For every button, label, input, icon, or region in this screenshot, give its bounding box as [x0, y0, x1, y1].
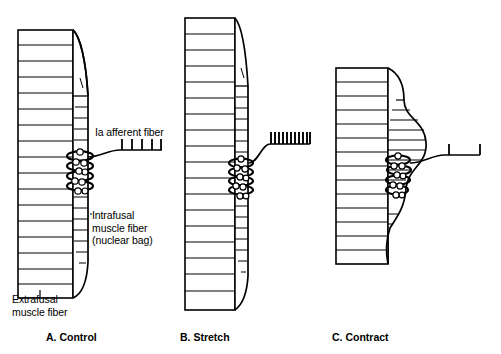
- panel-b-extrafusal-fiber: [185, 18, 235, 310]
- panel-c-spike-train: [449, 144, 480, 155]
- panel-b-group: [185, 18, 310, 310]
- panel-b-spike-train: [271, 132, 310, 144]
- panel-c-extrafusal-fiber: [336, 68, 388, 264]
- panel-b-caption: B. Stretch: [180, 331, 230, 343]
- label-intrafusal-fiber: Intrafusal muscle fiber (nuclear bag): [92, 209, 153, 247]
- panel-a-spike-train: [122, 139, 161, 150]
- panel-a-afferent-lead: [88, 150, 162, 157]
- panel-a-caption: A. Control: [46, 331, 97, 343]
- diagram-svg: [0, 0, 501, 354]
- panel-b-intrafusal-fiber: [235, 18, 248, 310]
- panel-a-extrafusal-fiber: [18, 30, 73, 298]
- panel-b-afferent-lead: [249, 144, 310, 163]
- panel-c-group: [336, 68, 480, 264]
- figure-canvas: Ia afferent fiber Intrafusal muscle fibe…: [0, 0, 501, 354]
- label-extrafusal-fiber: Extrafusal muscle fiber: [12, 293, 67, 318]
- label-afferent-fiber: Ia afferent fiber: [95, 126, 164, 139]
- panel-a-group: [18, 30, 162, 298]
- panel-c-caption: C. Contract: [332, 331, 389, 343]
